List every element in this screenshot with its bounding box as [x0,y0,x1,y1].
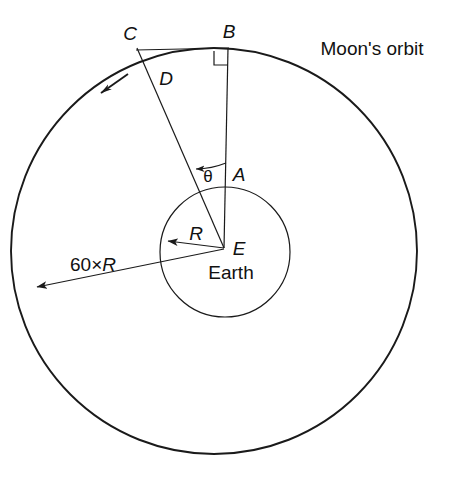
orbit-direction-arrow [101,74,128,93]
diagram-canvas: C B D θ A R E Earth 60×R Moon's orbit [0,0,458,482]
label-orbit-radius: 60×R [70,254,116,275]
label-moons-orbit: Moon's orbit [321,38,425,59]
label-point-c: C [123,23,137,44]
orbit-radius-prefix: 60× [70,254,102,275]
moon-orbit-diagram: C B D θ A R E Earth 60×R Moon's orbit [0,0,458,482]
right-angle-marker-b [214,51,228,65]
label-point-a: A [232,164,246,185]
label-radius-r: R [189,223,203,244]
line-e-c [137,48,224,248]
label-point-b: B [223,21,236,42]
line-e-b [224,48,228,248]
label-point-e: E [233,238,246,259]
label-earth: Earth [208,262,253,283]
label-angle-theta: θ [203,167,212,186]
label-point-d: D [159,68,173,89]
orbit-radius-arrow [37,249,224,287]
orbit-radius-symbol: R [102,254,116,275]
